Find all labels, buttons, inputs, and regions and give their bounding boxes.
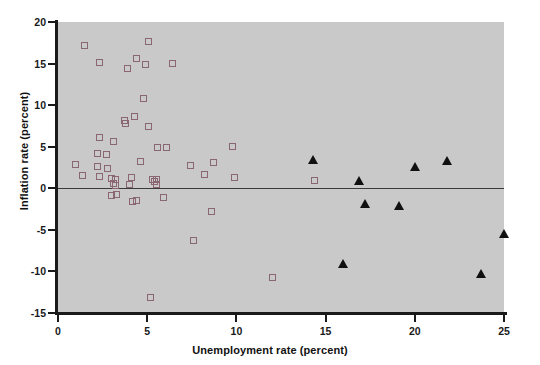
data-point-square xyxy=(126,181,133,188)
data-point-square xyxy=(201,171,208,178)
y-tick-label: -10 xyxy=(0,266,46,277)
x-tick-label: 15 xyxy=(306,326,346,337)
y-tick xyxy=(48,229,57,231)
data-point-square xyxy=(124,65,131,72)
data-point-square xyxy=(208,208,215,215)
data-point-square xyxy=(113,191,120,198)
data-point-square xyxy=(154,144,161,151)
data-point-triangle xyxy=(360,199,370,208)
data-point-square xyxy=(94,163,101,170)
data-point-square xyxy=(122,120,129,127)
data-point-triangle xyxy=(442,156,452,165)
data-point-square xyxy=(131,113,138,120)
y-tick xyxy=(48,187,57,189)
data-point-square xyxy=(153,181,160,188)
x-tick xyxy=(57,313,59,322)
data-point-square xyxy=(169,60,176,67)
data-point-square xyxy=(269,274,276,281)
x-axis-title: Unemployment rate (percent) xyxy=(0,344,540,356)
data-point-square xyxy=(190,237,197,244)
data-point-square xyxy=(163,144,170,151)
x-tick xyxy=(325,313,327,322)
data-point-square xyxy=(187,162,194,169)
data-point-square xyxy=(133,197,140,204)
x-tick xyxy=(146,313,148,322)
data-point-square xyxy=(96,134,103,141)
x-tick-label: 25 xyxy=(484,326,524,337)
data-point-square xyxy=(142,61,149,68)
y-tick xyxy=(48,146,57,148)
y-tick xyxy=(48,104,57,106)
data-point-square xyxy=(133,55,140,62)
data-point-square xyxy=(104,165,111,172)
data-point-square xyxy=(81,42,88,49)
data-point-square xyxy=(79,172,86,179)
data-point-square xyxy=(137,158,144,165)
data-point-triangle xyxy=(308,155,318,164)
data-point-square xyxy=(140,95,147,102)
data-point-triangle xyxy=(410,162,420,171)
x-tick-label: 0 xyxy=(38,326,78,337)
data-point-square xyxy=(145,123,152,130)
data-point-square xyxy=(147,294,154,301)
data-point-triangle xyxy=(338,259,348,268)
y-axis-title: Inflation rate (percent) xyxy=(18,51,30,251)
x-axis-spine xyxy=(55,312,507,315)
data-point-square xyxy=(145,38,152,45)
y-tick xyxy=(48,270,57,272)
y-tick-label: -15 xyxy=(0,308,46,319)
data-point-square xyxy=(311,177,318,184)
data-point-square xyxy=(103,151,110,158)
data-point-square xyxy=(110,138,117,145)
scatter-plot-figure: 20151050-5-10-15 0510152025 Inflation ra… xyxy=(0,0,540,365)
data-point-square xyxy=(210,159,217,166)
x-tick-label: 10 xyxy=(216,326,256,337)
data-point-square xyxy=(231,174,238,181)
y-tick-label: 20 xyxy=(0,17,46,28)
data-point-square xyxy=(96,59,103,66)
data-point-triangle xyxy=(499,229,509,238)
y-tick xyxy=(48,21,57,23)
data-point-square xyxy=(94,150,101,157)
data-point-square xyxy=(229,143,236,150)
x-tick-label: 20 xyxy=(395,326,435,337)
x-tick xyxy=(503,313,505,322)
data-point-triangle xyxy=(354,176,364,185)
data-point-triangle xyxy=(394,201,404,210)
data-point-square xyxy=(96,173,103,180)
data-point-triangle xyxy=(476,269,486,278)
data-point-square xyxy=(72,161,79,168)
data-point-square xyxy=(128,174,135,181)
x-tick xyxy=(235,313,237,322)
x-tick xyxy=(414,313,416,322)
x-tick-label: 5 xyxy=(127,326,167,337)
y-tick xyxy=(48,63,57,65)
y-tick xyxy=(48,312,57,314)
data-point-square xyxy=(112,182,119,189)
data-point-square xyxy=(160,194,167,201)
